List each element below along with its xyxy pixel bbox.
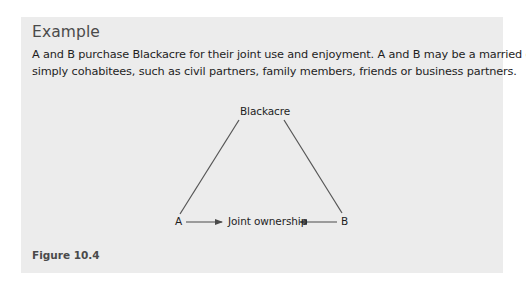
edge-blackacre-a xyxy=(180,120,239,214)
example-box: Example A and B purchase Blackacre for t… xyxy=(21,17,503,273)
node-b: B xyxy=(341,215,348,227)
node-joint-ownership: Joint ownership xyxy=(228,215,307,227)
figure-caption: Figure 10.4 xyxy=(32,249,100,261)
joint-ownership-diagram xyxy=(21,17,503,273)
node-a: A xyxy=(175,215,182,227)
edge-blackacre-b xyxy=(284,120,342,213)
node-blackacre: Blackacre xyxy=(240,105,290,117)
